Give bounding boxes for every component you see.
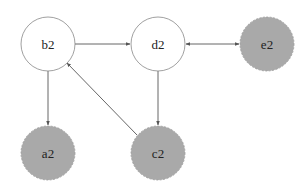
node-d2[interactable]: d2	[131, 17, 185, 71]
node-e2-label: e2	[261, 37, 273, 52]
node-b2[interactable]: b2	[21, 17, 75, 71]
node-a2-label: a2	[42, 146, 54, 161]
edge-c2-b2	[67, 63, 137, 135]
node-d2-label: d2	[152, 37, 165, 52]
node-e2[interactable]: e2	[240, 17, 294, 71]
node-a2[interactable]: a2	[21, 126, 75, 180]
node-c2-label: c2	[152, 146, 164, 161]
node-c2[interactable]: c2	[131, 126, 185, 180]
nodes: b2 d2 e2 a2 c2	[21, 17, 294, 180]
graph-diagram: b2 d2 e2 a2 c2	[0, 0, 307, 194]
node-b2-label: b2	[42, 37, 55, 52]
